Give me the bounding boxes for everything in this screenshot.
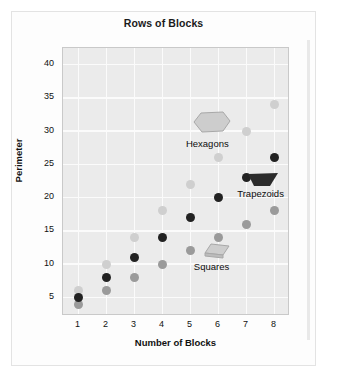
data-point <box>74 293 83 302</box>
data-point <box>270 100 279 109</box>
x-tick-label: 7 <box>231 320 261 329</box>
gridline-horizontal <box>63 130 288 132</box>
y-tick-label: 20 <box>20 192 54 201</box>
annotation-label-squares: Squares <box>194 261 229 272</box>
gridline-horizontal <box>63 297 288 299</box>
x-axis-label: Number of Blocks <box>62 337 289 348</box>
data-point <box>130 273 139 282</box>
data-point <box>102 273 111 282</box>
x-tick-label: 3 <box>118 320 148 329</box>
data-point <box>270 153 279 162</box>
data-point <box>102 260 111 269</box>
gridline-vertical <box>162 48 164 314</box>
annotation-label-hexagons: Hexagons <box>186 138 229 149</box>
x-tick-label: 5 <box>175 320 205 329</box>
gridline-vertical <box>218 48 220 314</box>
data-point <box>242 127 251 136</box>
x-tick-label: 8 <box>259 320 289 329</box>
chart-title: Rows of Blocks <box>11 17 316 29</box>
data-point <box>158 260 167 269</box>
x-tick-label: 6 <box>203 320 233 329</box>
x-axis-ticks: 12345678 <box>62 320 289 332</box>
data-point <box>186 180 195 189</box>
y-tick-label: 10 <box>20 259 54 268</box>
data-point <box>186 246 195 255</box>
data-point <box>158 206 167 215</box>
x-tick-label: 4 <box>146 320 176 329</box>
gridline-horizontal <box>63 64 288 66</box>
y-tick-label: 40 <box>20 59 54 68</box>
data-point <box>214 153 223 162</box>
x-tick-label: 1 <box>62 320 92 329</box>
x-tick-label: 2 <box>90 320 120 329</box>
data-point <box>270 206 279 215</box>
data-point <box>158 233 167 242</box>
gridline-horizontal <box>63 97 288 99</box>
gridline-vertical <box>78 48 80 314</box>
y-axis-ticks: 510152025303540 <box>22 47 58 315</box>
hexagon-icon <box>193 111 231 137</box>
data-point <box>242 220 251 229</box>
app-frame: Rows of Blocks HexagonsTrapezoidsSquares… <box>0 0 337 387</box>
vertical-scrollbar[interactable] <box>307 40 310 340</box>
y-tick-label: 30 <box>20 126 54 135</box>
data-point <box>214 193 223 202</box>
y-tick-label: 15 <box>20 225 54 234</box>
gridline-horizontal <box>63 230 288 232</box>
data-point <box>130 233 139 242</box>
data-point <box>130 253 139 262</box>
y-axis-label: Perimeter <box>13 116 24 206</box>
gridline-horizontal <box>63 164 288 166</box>
y-tick-label: 5 <box>20 292 54 301</box>
gridline-horizontal <box>63 263 288 265</box>
data-point <box>186 213 195 222</box>
y-tick-label: 35 <box>20 92 54 101</box>
data-point <box>102 286 111 295</box>
data-point <box>214 233 223 242</box>
y-tick-label: 25 <box>20 159 54 168</box>
plot-area: HexagonsTrapezoidsSquares <box>62 47 289 315</box>
annotation-label-trapezoids: Trapezoids <box>237 188 284 199</box>
